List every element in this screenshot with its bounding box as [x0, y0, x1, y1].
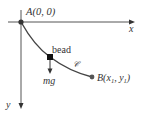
endpoint-b-point [90, 75, 95, 80]
endpoint-b-label: B(x1, y1) [97, 72, 131, 84]
x-axis [8, 20, 135, 25]
origin-label: A(0, 0) [25, 6, 56, 18]
origin-point [18, 19, 23, 24]
bead-label: bead [52, 44, 71, 55]
curve-label: 𝒞 [73, 60, 81, 69]
gravity-arrow-icon [48, 60, 53, 74]
bead-curve-diagram: A(0, 0) x y bead mg 𝒞 B(x1, y1) [0, 0, 147, 115]
x-axis-label: x [128, 23, 134, 34]
force-label: mg [43, 75, 55, 86]
y-axis-arrow-icon [19, 103, 24, 109]
y-axis-label: y [5, 99, 11, 110]
